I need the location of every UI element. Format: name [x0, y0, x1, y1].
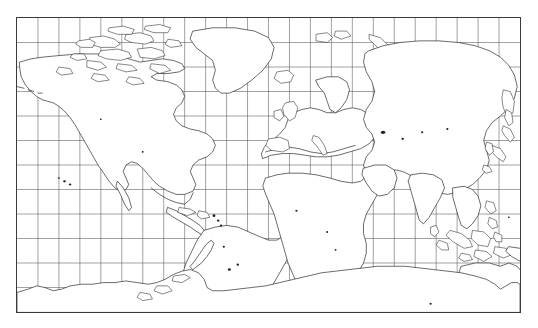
- iceland: [274, 70, 294, 83]
- svalbard: [316, 31, 351, 42]
- hawaii: [58, 177, 71, 185]
- greenland: [190, 28, 274, 93]
- british-isles: [274, 101, 298, 121]
- map-frame: [16, 17, 521, 313]
- world-map-canvas[interactable]: [17, 18, 520, 312]
- world-map-figure: [0, 0, 538, 328]
- sri-lanka: [431, 225, 439, 236]
- india: [408, 173, 444, 224]
- north-america: [20, 54, 216, 194]
- scandinavia: [316, 77, 350, 113]
